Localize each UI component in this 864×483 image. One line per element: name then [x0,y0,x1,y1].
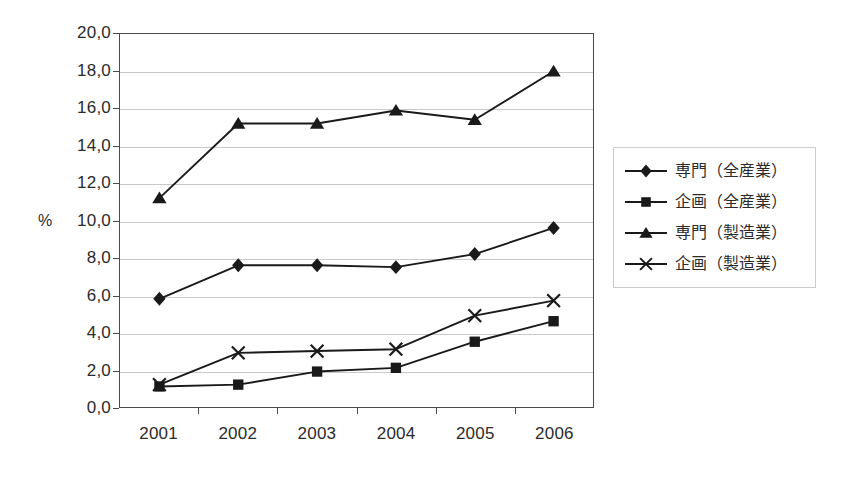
y-axis-tick-mark [113,296,119,297]
y-axis-tick-mark [113,183,119,184]
legend-label: 専門（全産業） [675,162,787,180]
series-layer [120,34,593,407]
y-axis-tick-mark [113,108,119,109]
x-axis-tick-label: 2005 [435,425,515,443]
x-axis-tick-label: 2001 [119,425,199,443]
x-axis-tick-mark [515,408,516,414]
chart-figure: % 0,02,04,06,08,010,012,014,016,018,020,… [0,0,864,483]
x-axis-tick-label: 2002 [198,425,278,443]
series-4 [153,294,560,391]
legend-label: 専門（製造業） [675,224,787,242]
series-line [159,301,553,385]
y-axis-tick-mark [113,408,119,409]
legend-item[interactable]: 専門（全産業） [614,155,815,186]
legend-label: 企画（全産業） [675,193,787,211]
data-point-diamond [547,221,559,235]
legend-item[interactable]: 専門（製造業） [614,217,815,248]
data-point-square [312,366,322,376]
series-line [159,321,553,386]
y-axis-tick-label: 20,0 [59,24,111,41]
data-point-square [391,363,401,373]
x-axis-tick-mark [198,408,199,414]
data-point-diamond [311,258,323,272]
x-axis-tick-mark [357,408,358,414]
y-axis-tick-label: 12,0 [59,174,111,191]
data-point-diamond [390,260,402,274]
x-axis-tick-label: 2006 [514,425,594,443]
legend-marker-cross-icon [624,255,668,273]
legend-marker-diamond-icon [624,162,668,180]
x-axis-tick-mark [436,408,437,414]
legend-item[interactable]: 企画（製造業） [614,248,815,279]
y-axis-tick-mark [113,71,119,72]
y-axis-tick-label: 4,0 [59,324,111,341]
data-point-square [548,316,558,326]
series-1 [153,221,560,306]
chart-legend: 専門（全産業）企画（全産業）専門（製造業）企画（製造業） [613,147,816,288]
y-axis-tick-label: 8,0 [59,249,111,266]
y-axis-unit-label: % [38,213,52,229]
data-point-triangle [546,65,560,77]
y-axis-tick-mark [113,146,119,147]
x-axis-tick-label: 2003 [277,425,357,443]
series-2 [154,316,559,392]
data-point-diamond [153,292,165,306]
y-axis-tick-mark [113,221,119,222]
series-line [159,71,553,198]
y-axis-tick-labels: 0,02,04,06,08,010,012,014,016,018,020,0 [55,0,111,483]
x-axis-tick-label: 2004 [356,425,436,443]
legend-marker-triangle-icon [624,224,668,242]
y-axis-tick-mark [113,371,119,372]
data-point-diamond [232,258,244,272]
y-axis-tick-label: 18,0 [59,62,111,79]
plot-area [119,33,594,408]
y-axis-tick-mark [113,258,119,259]
data-point-square [470,337,480,347]
y-axis-tick-label: 14,0 [59,137,111,154]
y-axis-tick-mark [113,333,119,334]
y-axis-tick-label: 6,0 [59,287,111,304]
y-axis-tick-label: 2,0 [59,362,111,379]
series-3 [152,65,561,204]
legend-label: 企画（製造業） [675,255,787,273]
legend-item[interactable]: 企画（全産業） [614,186,815,217]
x-axis-tick-mark [277,408,278,414]
y-axis-tick-mark [113,33,119,34]
data-point-square [233,379,243,389]
series-line [159,228,553,299]
y-axis-tick-label: 0,0 [59,399,111,416]
y-axis-tick-label: 16,0 [59,99,111,116]
data-point-diamond [469,247,481,261]
y-axis-tick-label: 10,0 [59,212,111,229]
data-point-triangle [389,104,403,116]
legend-marker-square-icon [624,193,668,211]
